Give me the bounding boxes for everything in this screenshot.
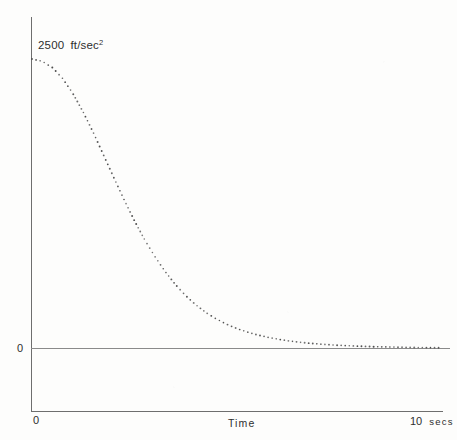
peak-value-exponent: 2 (99, 38, 103, 47)
peak-value-number: 2500 (38, 39, 64, 51)
y-axis-zero-label: 0 (17, 342, 23, 354)
x-axis-title: Time (228, 417, 255, 429)
x-axis-end-label: 10secs (410, 415, 454, 427)
peak-value-label: 2500ft/sec2 (38, 38, 103, 51)
x-axis-end-unit: secs (429, 416, 453, 427)
peak-value-unit: ft/sec (70, 39, 99, 51)
figure-acceleration-vs-time: 2500ft/sec2 0 0 Time 10secs (0, 0, 457, 440)
x-axis-origin-label: 0 (33, 414, 39, 426)
x-axis-end-number: 10 (410, 415, 422, 427)
acceleration-decay-curve (31, 58, 439, 349)
plot-canvas: 2500ft/sec2 0 0 Time 10secs (0, 0, 457, 440)
